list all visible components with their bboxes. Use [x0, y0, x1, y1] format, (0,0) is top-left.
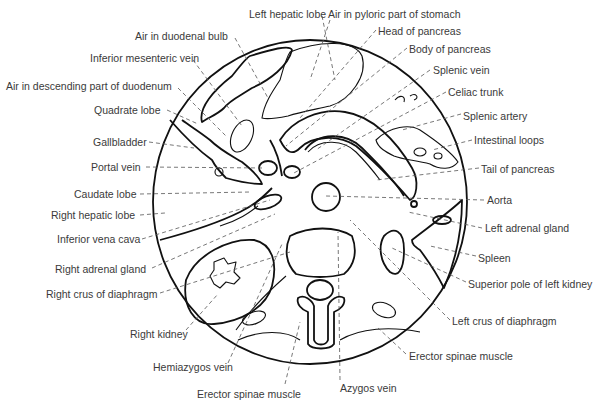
splenic-vein-scribble: [395, 95, 417, 102]
label-right-crus-diaphragm: Right crus of diaphragm: [46, 288, 157, 300]
spinous-process: [298, 297, 345, 349]
label-portal-vein: Portal vein: [91, 161, 141, 173]
label-quadrate-lobe: Quadrate lobe: [94, 104, 161, 116]
label-aorta: Aorta: [487, 194, 512, 206]
label-tail-of-pancreas: Tail of pancreas: [481, 163, 555, 175]
duodenum-ellipse: [226, 116, 258, 155]
label-left-crus-diaphragm: Left crus of diaphragm: [452, 315, 556, 327]
section-boundary-circle: [153, 40, 467, 364]
label-inferior-vena-cava: Inferior vena cava: [57, 233, 140, 245]
label-air-descending-duodenum: Air in descending part of duodenum: [6, 80, 172, 92]
label-head-of-pancreas: Head of pancreas: [378, 25, 461, 37]
label-azygos-vein: Azygos vein: [340, 382, 397, 394]
head-pancreas-blob: [284, 166, 300, 178]
label-right-hepatic-lobe: Right hepatic lobe: [51, 209, 135, 221]
label-hemiazygos-vein: Hemiazygos vein: [153, 361, 233, 373]
intestine-fleck-1: [414, 148, 426, 156]
renal-pelvis-shape: [210, 258, 240, 288]
label-body-of-pancreas: Body of pancreas: [409, 43, 491, 55]
label-superior-pole-left-kidney: Superior pole of left kidney: [468, 278, 592, 290]
tail-fleck: [411, 201, 417, 207]
label-intestinal-loops: Intestinal loops: [474, 134, 544, 146]
pancreas-body-shape: [280, 111, 416, 200]
left-erector-blob: [370, 299, 397, 320]
label-air-duodenal-bulb: Air in duodenal bulb: [135, 30, 228, 42]
label-splenic-artery: Splenic artery: [463, 110, 527, 122]
right-liver-boundary: [160, 188, 272, 240]
aorta-shape: [312, 183, 340, 211]
muscle-lines: [238, 329, 420, 340]
spleen-shape: [412, 200, 462, 288]
stomach-shape: [262, 43, 363, 118]
vertebral-body: [287, 229, 355, 278]
label-celiac-trunk: Celiac trunk: [448, 86, 503, 98]
label-left-hepatic-lobe: Left hepatic lobe: [249, 8, 326, 20]
intestine-fleck-2: [434, 153, 442, 159]
label-left-adrenal-gland: Left adrenal gland: [485, 222, 569, 234]
label-gallbladder: Gallbladder: [93, 136, 147, 148]
spinal-canal: [307, 280, 333, 300]
anatomy-figure: Left hepatic lobe Air in duodenal bulb I…: [0, 0, 598, 400]
label-right-kidney: Right kidney: [130, 328, 188, 340]
label-erector-spinae-left: Erector spinae muscle: [197, 388, 301, 400]
label-air-pyloric-stomach: Air in pyloric part of stomach: [328, 8, 460, 20]
label-erector-spinae-right: Erector spinae muscle: [409, 350, 513, 362]
label-caudate-lobe: Caudate lobe: [74, 188, 136, 200]
label-splenic-vein: Splenic vein: [433, 64, 490, 76]
label-spleen: Spleen: [478, 252, 511, 264]
label-inferior-mesenteric-vein: Inferior mesenteric vein: [90, 52, 199, 64]
label-right-adrenal-gland: Right adrenal gland: [55, 263, 146, 275]
intestinal-loops-shape: [376, 127, 458, 168]
